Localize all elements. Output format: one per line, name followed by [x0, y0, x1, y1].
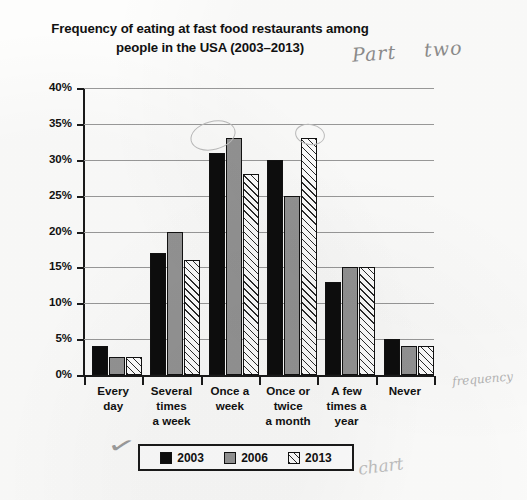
bar-2013-never	[418, 346, 434, 375]
bar-2006-once-a-week	[226, 138, 242, 375]
x-axis-label-line: times a	[327, 399, 367, 412]
bar-2006-never	[401, 346, 417, 375]
bar-group-never	[376, 88, 434, 375]
y-axis-label-10: 10%	[32, 296, 72, 308]
x-axis-label-once-a-week: Once aweek	[197, 384, 263, 414]
x-tick-end	[434, 376, 436, 385]
bar-2013-several-times-a-week	[184, 260, 200, 375]
y-tick-30	[77, 160, 84, 162]
y-axis-label-5: 5%	[32, 332, 72, 344]
legend-swatch-2013	[288, 452, 300, 464]
legend-item-2013: 2013	[288, 451, 332, 465]
bar-2003-several-times-a-week	[150, 253, 166, 375]
y-tick-20	[77, 232, 84, 234]
bar-2003-never	[384, 339, 400, 375]
bar-2013-once-or-twice-a-month	[301, 138, 317, 375]
x-axis-label-line: times	[156, 399, 186, 412]
x-axis-label-line: A few	[331, 384, 362, 397]
bar-2006-every-day	[109, 357, 125, 375]
bar-2013-every-day	[126, 357, 142, 375]
x-axis-label-once-or-twice-a-month: Once ortwicea month	[255, 384, 321, 428]
bar-chart: % of people 40%35%30%25%20%15%10%5%0%Eve…	[0, 0, 527, 500]
y-axis-label-40: 40%	[32, 81, 72, 93]
legend-swatch-2003	[160, 452, 172, 464]
y-axis-label-25: 25%	[32, 189, 72, 201]
bar-group-once-a-week	[201, 88, 259, 375]
x-axis-label-line: Once a	[210, 384, 249, 397]
legend-swatch-2006	[224, 452, 236, 464]
y-tick-25	[77, 196, 84, 198]
chart-legend: 2003 2006 2013	[138, 444, 354, 471]
x-axis-label-line: week	[216, 399, 244, 412]
legend-label-2006: 2006	[241, 451, 268, 465]
x-axis-label-line: day	[103, 399, 123, 412]
y-axis-label-30: 30%	[32, 153, 72, 165]
legend-label-2003: 2003	[177, 451, 204, 465]
y-tick-0	[77, 375, 84, 377]
x-axis-label-never: Never	[372, 384, 438, 399]
y-tick-15	[77, 267, 84, 269]
x-axis-label-line: a month	[266, 414, 311, 427]
legend-item-2003: 2003	[160, 451, 204, 465]
bar-2003-once-or-twice-a-month	[267, 160, 283, 375]
bar-2006-a-few-times-a-year	[342, 267, 358, 375]
bar-2006-once-or-twice-a-month	[284, 196, 300, 375]
x-axis-label-several-times-a-week: Severaltimesa week	[139, 384, 205, 428]
bar-2003-once-a-week	[209, 153, 225, 375]
bar-group-several-times-a-week	[142, 88, 200, 375]
x-axis-label-a-few-times-a-year: A fewtimes ayear	[314, 384, 380, 428]
y-tick-40	[77, 88, 84, 90]
x-axis-label-line: Never	[389, 384, 421, 397]
legend-item-2006: 2006	[224, 451, 268, 465]
plot-area	[84, 88, 434, 375]
x-axis-label-every-day: Everyday	[80, 384, 146, 414]
x-axis-label-line: year	[335, 414, 359, 427]
x-axis-label-line: twice	[274, 399, 303, 412]
y-axis-label-20: 20%	[32, 225, 72, 237]
bar-2006-several-times-a-week	[167, 232, 183, 376]
x-axis-label-line: Once or	[266, 384, 310, 397]
x-axis-label-line: a week	[152, 414, 190, 427]
y-axis-label-0: 0%	[32, 368, 72, 380]
y-tick-35	[77, 124, 84, 126]
x-axis-label-line: Every	[97, 384, 129, 397]
bar-group-a-few-times-a-year	[317, 88, 375, 375]
bar-2003-a-few-times-a-year	[325, 282, 341, 375]
bar-2003-every-day	[92, 346, 108, 375]
y-axis-label-15: 15%	[32, 260, 72, 272]
y-axis-label-35: 35%	[32, 117, 72, 129]
y-tick-10	[77, 303, 84, 305]
legend-label-2013: 2013	[305, 451, 332, 465]
x-axis-label-line: Several	[151, 384, 192, 397]
bar-group-every-day	[84, 88, 142, 375]
bar-group-once-or-twice-a-month	[259, 88, 317, 375]
bar-2013-a-few-times-a-year	[359, 267, 375, 375]
bar-2013-once-a-week	[243, 174, 259, 375]
y-tick-5	[77, 339, 84, 341]
